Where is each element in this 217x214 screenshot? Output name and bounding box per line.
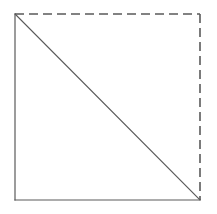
figure-canvas: [0, 0, 217, 214]
geometry-diagram: [0, 0, 217, 214]
